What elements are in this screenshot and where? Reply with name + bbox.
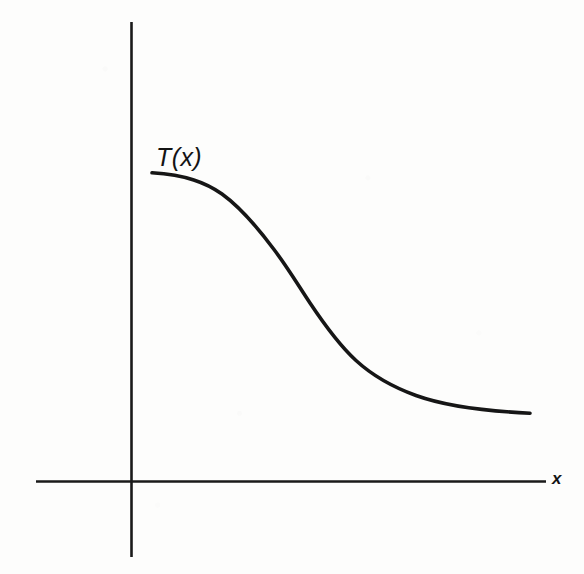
plot-svg <box>0 0 584 574</box>
figure-canvas: T(x) x <box>0 0 584 574</box>
curve-label-tx: T(x) <box>156 143 202 172</box>
tx-curve <box>152 173 530 413</box>
x-axis-label: x <box>552 469 561 489</box>
